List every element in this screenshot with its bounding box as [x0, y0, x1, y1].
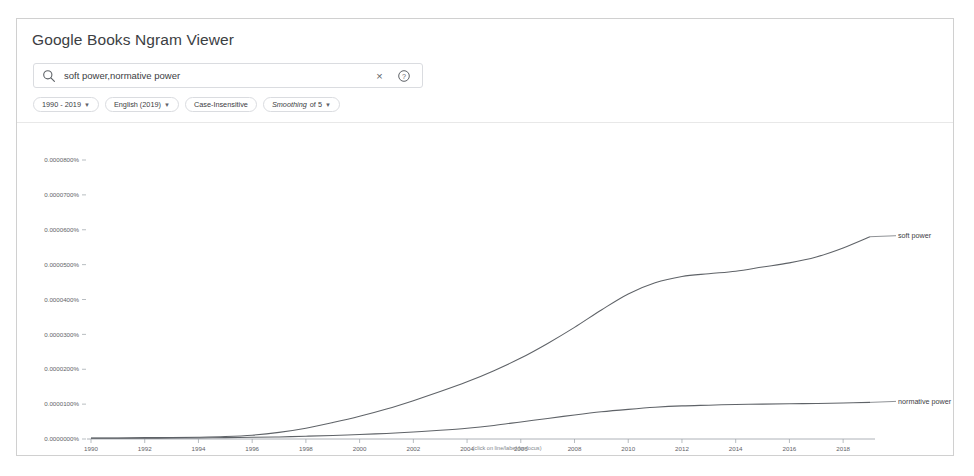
- filter-chip-row: 1990 - 2019 ▼ English (2019) ▼ Case-Inse…: [33, 97, 340, 112]
- ngram-chart[interactable]: 0.0000000%0.0000100%0.0000200%0.0000300%…: [17, 123, 953, 456]
- y-axis-tick-label: 0.0000500%: [44, 261, 79, 268]
- x-axis-tick-label: 2002: [406, 445, 420, 452]
- x-axis-tick-label: 2010: [621, 445, 635, 452]
- search-input[interactable]: soft power,normative power × ?: [33, 63, 423, 88]
- y-axis-tick-label: 0.0000200%: [44, 365, 79, 372]
- chip-case-sensitivity[interactable]: Case-Insensitive: [185, 97, 257, 112]
- series-line-soft-power[interactable]: [91, 237, 870, 438]
- chevron-down-icon: ▼: [84, 102, 90, 108]
- chip-date-range-label: 1990 - 2019: [42, 97, 81, 112]
- series-label-normative-power[interactable]: normative power: [898, 397, 952, 406]
- x-axis-tick-label: 2014: [729, 445, 743, 452]
- chip-corpus[interactable]: English (2019) ▼: [105, 97, 179, 112]
- x-axis-tick-label: 2000: [353, 445, 367, 452]
- chip-smoothing-lead: Smoothing: [272, 97, 307, 112]
- x-axis-tick-label: 1990: [84, 445, 98, 452]
- ngram-viewer-window: Google Books Ngram Viewer soft power,nor…: [16, 18, 954, 456]
- x-axis-tick-label: 2012: [675, 445, 689, 452]
- y-axis-tick-label: 0.0000000%: [44, 435, 79, 442]
- y-axis-tick-label: 0.0000800%: [44, 156, 79, 163]
- chart-footnote: (click on line/label for focus): [472, 445, 541, 451]
- x-axis-tick-label: 1998: [299, 445, 313, 452]
- page-title: Google Books Ngram Viewer: [32, 31, 234, 49]
- search-icon: [42, 69, 56, 83]
- chevron-down-icon: ▼: [325, 102, 331, 108]
- series-label-soft-power[interactable]: soft power: [898, 231, 932, 240]
- chart-canvas[interactable]: 0.0000000%0.0000100%0.0000200%0.0000300%…: [17, 123, 953, 456]
- x-axis-tick-label: 2016: [783, 445, 797, 452]
- y-axis-tick-label: 0.0000600%: [44, 226, 79, 233]
- chip-smoothing[interactable]: Smoothing of 5 ▼: [263, 97, 340, 112]
- svg-text:?: ?: [402, 72, 406, 81]
- chip-smoothing-rest: of 5: [310, 97, 322, 112]
- y-axis-tick-label: 0.0000100%: [44, 400, 79, 407]
- chip-corpus-label: English (2019): [114, 97, 161, 112]
- chip-date-range[interactable]: 1990 - 2019 ▼: [33, 97, 99, 112]
- y-axis-tick-label: 0.0000300%: [44, 331, 79, 338]
- x-axis-ticks: 1990199219941996199820002002200420062008…: [84, 439, 850, 452]
- chip-case-sensitivity-label: Case-Insensitive: [194, 97, 248, 112]
- help-circle-icon[interactable]: ?: [397, 69, 411, 83]
- y-axis-ticks: 0.0000000%0.0000100%0.0000200%0.0000300%…: [44, 156, 86, 442]
- chevron-down-icon: ▼: [164, 102, 170, 108]
- x-axis-tick-label: 2008: [568, 445, 582, 452]
- close-icon[interactable]: ×: [373, 69, 386, 83]
- x-axis-tick-label: 1992: [138, 445, 152, 452]
- series-lines[interactable]: [91, 237, 870, 439]
- series-leader-line: [870, 236, 896, 237]
- x-axis-tick-label: 1996: [245, 445, 259, 452]
- x-axis-tick-label: 1994: [192, 445, 206, 452]
- series-labels[interactable]: soft powernormative power: [870, 231, 952, 406]
- y-axis-tick-label: 0.0000400%: [44, 296, 79, 303]
- x-axis-tick-label: 2018: [836, 445, 850, 452]
- series-line-normative-power[interactable]: [91, 402, 870, 438]
- y-axis-tick-label: 0.0000700%: [44, 191, 79, 198]
- series-leader-line: [870, 401, 896, 402]
- search-query-value: soft power,normative power: [64, 69, 362, 83]
